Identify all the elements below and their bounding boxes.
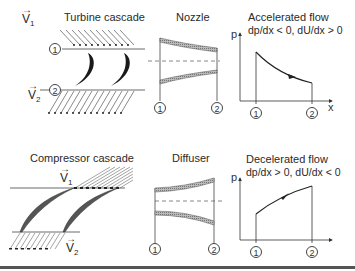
- turbine-outlet-streamlines: [49, 91, 134, 113]
- compressor-inlet-streamlines: [75, 167, 133, 188]
- cascade-flow-diagram: →V1 Turbine cascade 1 →V2 2 Nozzle 1 2 A…: [0, 0, 355, 271]
- turbine-cascade-title: Turbine cascade: [64, 11, 145, 23]
- turbine-outlet-velocity-label: →V2: [28, 89, 40, 103]
- turbine-station-1: 1: [49, 43, 61, 55]
- decelerated-flow-condition: dp/dx > 0, dU/dx < 0: [246, 166, 341, 178]
- accelerated-station-2: 2: [306, 107, 318, 119]
- diffuser-station-1: 1: [149, 243, 161, 255]
- diagram-graphics: [0, 0, 355, 271]
- compressor-outlet-velocity-label: →V2: [66, 242, 78, 256]
- decelerated-station-1: 1: [250, 246, 262, 258]
- turbine-inlet-streamlines: [60, 30, 134, 45]
- accelerated-flow-condition: dp/dx < 0, dU/dx > 0: [248, 24, 343, 36]
- nozzle-station-1: 1: [154, 102, 166, 114]
- vector-arrow-icon: →: [60, 163, 70, 175]
- compressor-blade: [63, 188, 118, 232]
- vector-arrow-icon: →: [28, 80, 38, 92]
- decelerated-y-axis-label: p: [231, 171, 237, 183]
- diffuser-station-2: 2: [208, 243, 220, 255]
- vector-arrow-icon: →: [66, 233, 76, 245]
- diffuser-title: Diffuser: [172, 152, 210, 164]
- accelerated-station-1: 1: [250, 107, 262, 119]
- nozzle: [148, 38, 220, 101]
- turbine-station-2: 2: [49, 84, 61, 96]
- accelerated-y-axis-label: p: [231, 28, 237, 40]
- compressor-cascade-title: Compressor cascade: [30, 152, 134, 164]
- turbine-blade: [75, 53, 94, 86]
- accelerated-x-axis-label: x: [328, 101, 334, 113]
- compressor-outlet-streamlines: [10, 233, 65, 249]
- accelerated-flow-title: Accelerated flow: [248, 11, 329, 23]
- turbine-blade: [111, 53, 130, 86]
- turbine-inlet-velocity-label: →V1: [22, 13, 34, 27]
- decelerated-flow-title: Decelerated flow: [246, 153, 328, 165]
- compressor-inlet-velocity-label: →V1: [60, 172, 72, 186]
- diffuser: [155, 178, 225, 245]
- accelerated-flow-plot: [240, 33, 332, 104]
- nozzle-title: Nozzle: [176, 11, 210, 23]
- decelerated-flow-plot: [240, 178, 332, 243]
- decelerated-station-2: 2: [306, 246, 318, 258]
- nozzle-station-2: 2: [211, 102, 223, 114]
- vector-arrow-icon: →: [22, 4, 32, 16]
- bottom-divider: [0, 266, 355, 269]
